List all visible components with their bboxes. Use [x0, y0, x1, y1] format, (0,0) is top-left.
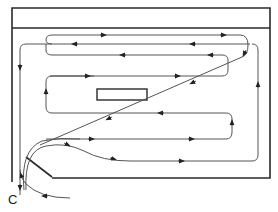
flow-lines — [20, 35, 258, 198]
circulation-diagram — [0, 0, 278, 212]
central-obstacle — [97, 89, 147, 100]
exit-label-c: C — [8, 192, 17, 207]
outer-frame — [12, 8, 270, 182]
